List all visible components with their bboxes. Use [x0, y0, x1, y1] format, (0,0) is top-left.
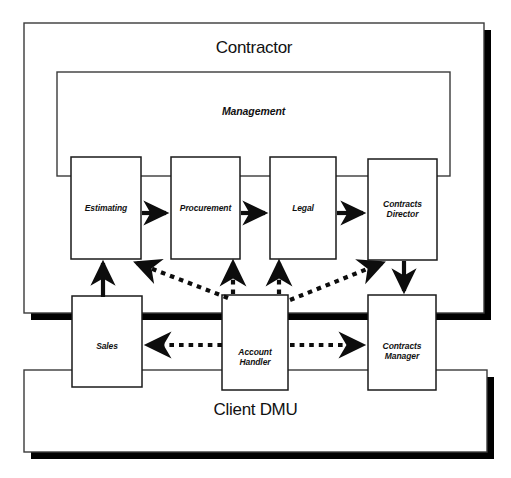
node-sales[interactable] — [72, 296, 142, 387]
node-contracts-manager[interactable] — [368, 295, 436, 390]
node-contracts-director[interactable] — [368, 159, 437, 260]
management-title: Management — [57, 105, 450, 117]
node-legal[interactable] — [270, 157, 336, 259]
node-estimating[interactable] — [71, 157, 141, 259]
node-procurement[interactable] — [171, 157, 240, 259]
client-dmu-title: Client DMU — [24, 400, 487, 420]
diagram-canvas: Contractor Management Client DMU Estimat… — [0, 0, 511, 478]
contractor-title: Contractor — [24, 38, 484, 58]
node-account-handler[interactable] — [222, 295, 288, 390]
